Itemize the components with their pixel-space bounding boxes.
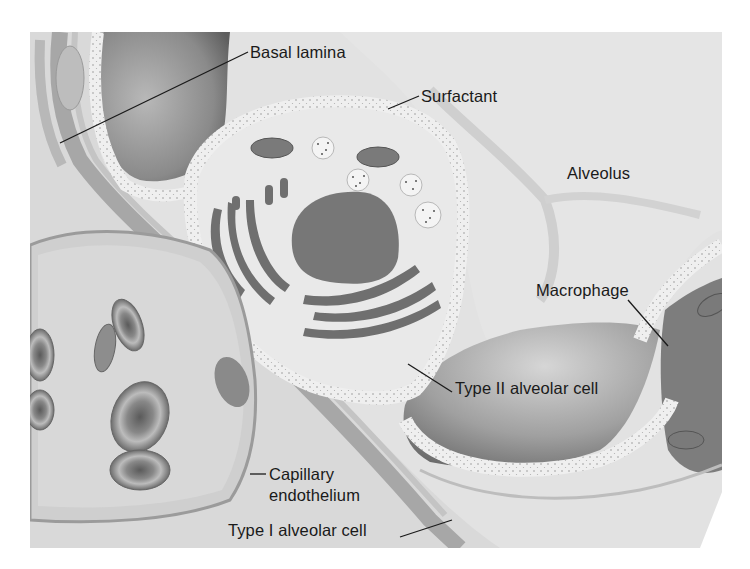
- alveolar-wall-illustration: [0, 0, 750, 569]
- label-basal-lamina: Basal lamina: [250, 43, 346, 62]
- label-type-ii-alveolar-cell: Type II alveolar cell: [455, 379, 598, 398]
- label-type-i-alveolar-cell: Type I alveolar cell: [228, 521, 367, 540]
- label-capillary-line1: Capillary: [269, 464, 360, 485]
- label-capillary-line2: endothelium: [269, 485, 360, 506]
- label-surfactant: Surfactant: [421, 87, 497, 106]
- label-alveolus: Alveolus: [567, 164, 630, 183]
- label-capillary-endothelium: Capillary endothelium: [269, 464, 360, 506]
- label-macrophage: Macrophage: [536, 281, 629, 300]
